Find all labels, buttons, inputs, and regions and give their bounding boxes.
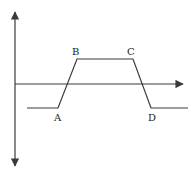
point-label-c: C: [127, 46, 135, 57]
point-label-a: A: [53, 112, 62, 123]
waveform-diagram: A B C D: [0, 0, 194, 175]
point-label-b: B: [72, 46, 79, 57]
point-label-d: D: [148, 112, 156, 123]
